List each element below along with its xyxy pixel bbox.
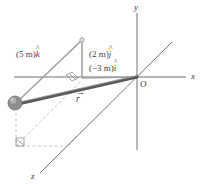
j-unit-vector: ^j	[109, 50, 112, 59]
i-unit-vector: ^i	[114, 64, 117, 73]
x-axis-label: x	[191, 72, 195, 81]
origin-label: O	[140, 80, 147, 89]
j-component-magnitude: (2 m)	[89, 49, 109, 59]
y-axis-label: y	[134, 3, 138, 12]
j-component-label: (2 m)^j	[89, 50, 111, 59]
r-vector-accent: →	[76, 88, 80, 97]
axis-group	[14, 13, 186, 173]
corner-node	[80, 38, 84, 42]
j-hat-accent: ^	[109, 45, 112, 53]
k-component-magnitude: (5 m)	[16, 49, 36, 59]
k-component-label: (5 m)^k	[16, 50, 40, 59]
i-component-label: (−3 m)^i	[89, 64, 116, 73]
right-angle-marker-group	[16, 72, 78, 146]
r-vector-symbol-wrap: →r	[76, 94, 80, 104]
right-angle-marker-lower-tick	[16, 139, 24, 145]
figure-canvas	[0, 0, 202, 184]
i-component-magnitude: (−3 m)	[89, 63, 114, 73]
physics-figure-3d-vector: (5 m)^k (2 m)^j (−3 m)^i →r O y x z	[0, 0, 202, 184]
i-hat-accent: ^	[114, 59, 117, 67]
k-unit-vector: ^k	[36, 50, 40, 59]
k-hat-accent: ^	[36, 45, 40, 53]
r-vector-label: →r	[76, 94, 80, 104]
particle-ball	[8, 96, 22, 110]
z-axis-label: z	[31, 172, 35, 181]
